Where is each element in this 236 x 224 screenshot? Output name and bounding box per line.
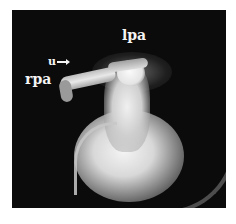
label-u: u (48, 55, 56, 68)
arrow-icon (57, 61, 67, 63)
catheter-outline (162, 80, 226, 208)
label-lpa: lpa (122, 27, 146, 43)
angiogram-image (12, 10, 226, 208)
label-rpa: rpa (25, 71, 51, 87)
